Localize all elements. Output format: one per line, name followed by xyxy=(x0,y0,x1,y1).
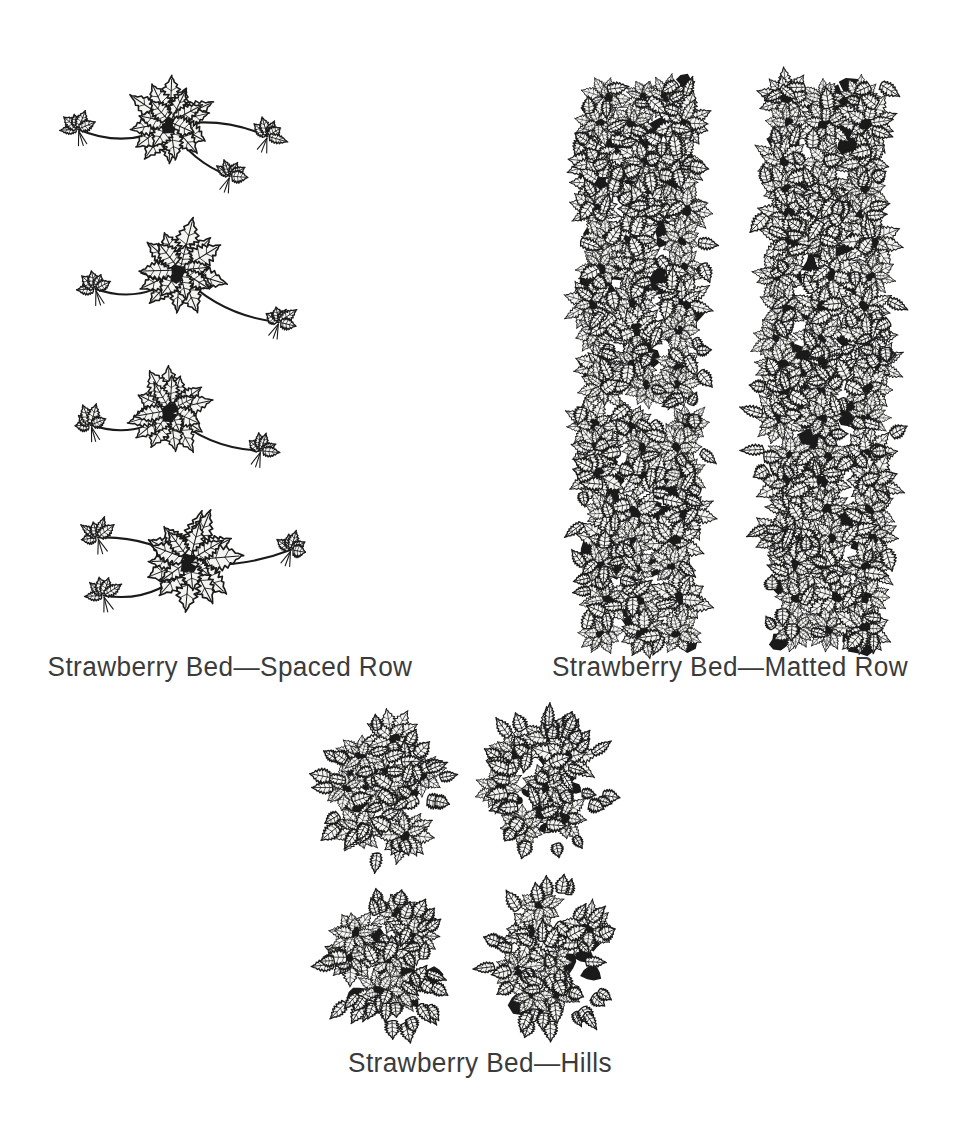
matted-row-column xyxy=(737,57,917,672)
leaflet xyxy=(308,766,331,786)
leaflet xyxy=(698,447,720,468)
spaced-row-illustration xyxy=(60,60,390,650)
leaflet xyxy=(697,236,719,252)
leaflet xyxy=(550,842,565,859)
leaflet xyxy=(268,132,289,147)
runner-plantlet xyxy=(244,111,294,159)
leaflet xyxy=(231,170,248,184)
leaflet xyxy=(370,713,383,730)
leaflet xyxy=(585,956,606,969)
leaflet xyxy=(379,1003,392,1024)
leaflet xyxy=(292,543,307,559)
leaflet xyxy=(472,961,495,974)
strawberry-plant-crown xyxy=(123,71,222,167)
figure-matted-row xyxy=(540,60,940,650)
matted-row-illustration xyxy=(540,60,940,660)
runner-plantlet xyxy=(53,104,101,151)
leaflet xyxy=(590,737,615,758)
hill-clump xyxy=(308,694,459,874)
figure-spaced-row xyxy=(60,60,390,650)
leaflet xyxy=(740,444,764,456)
hill-clump xyxy=(464,702,621,861)
caption-matted-row: Strawberry Bed—Matted Row xyxy=(517,652,944,683)
figure-hills xyxy=(300,710,660,1040)
leaflet xyxy=(384,1020,400,1039)
runner-plantlet xyxy=(268,525,312,571)
leaflet xyxy=(262,445,280,458)
spaced-row-plant xyxy=(70,210,302,344)
hill-clump xyxy=(472,873,618,1042)
caption-spaced-row: Strawberry Bed—Spaced Row xyxy=(26,652,433,683)
leaflet xyxy=(572,585,591,597)
hills-illustration xyxy=(300,710,660,1050)
leaflet xyxy=(738,401,764,419)
leaflet xyxy=(572,572,591,587)
leaflet xyxy=(368,852,383,874)
strawberry-plant-crown xyxy=(120,360,220,463)
hill-clump xyxy=(310,887,455,1044)
strawberry-plant-crown xyxy=(140,503,248,616)
spaced-row-plant xyxy=(67,360,285,473)
leaflet xyxy=(697,344,712,356)
runner-plantlet xyxy=(67,398,113,447)
leaflet xyxy=(279,317,297,333)
leaflet xyxy=(500,886,524,913)
runner-plantlet xyxy=(78,570,130,618)
spaced-row-plant xyxy=(74,503,312,618)
spaced-row-plant xyxy=(53,71,293,198)
leaflet xyxy=(888,420,911,441)
leaflet xyxy=(748,378,765,393)
leaflet xyxy=(832,428,848,440)
caption-hills: Strawberry Bed—Hills xyxy=(296,1048,665,1079)
runner-plantlet xyxy=(70,264,117,311)
leaflet xyxy=(392,888,410,905)
runner-plantlet xyxy=(74,511,124,560)
matted-row-column xyxy=(549,62,728,670)
